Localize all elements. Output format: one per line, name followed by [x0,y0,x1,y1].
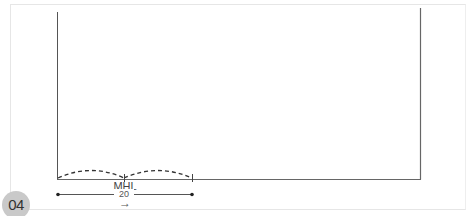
dimension-end-dot [190,193,194,197]
step-number-badge: 04 [2,191,30,216]
elevation-diagram [0,0,472,216]
dashed-arc-2 [124,171,192,179]
dimension-start-dot [56,193,60,197]
direction-arrow-icon: → [110,196,140,210]
dashed-arc-1 [58,171,124,179]
